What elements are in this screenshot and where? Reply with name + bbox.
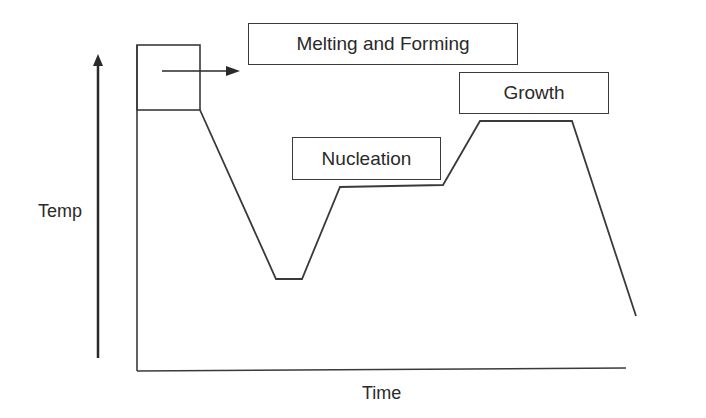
stage-label-text: Melting and Forming bbox=[296, 33, 469, 55]
stage-label-text: Nucleation bbox=[322, 148, 412, 170]
temp-axis-arrow-icon bbox=[93, 54, 103, 358]
stage-label-melting-and-forming: Melting and Forming bbox=[248, 23, 518, 65]
y-axis-label: Temp bbox=[38, 201, 82, 222]
x-axis-label: Time bbox=[362, 383, 401, 404]
stage-label-text: Growth bbox=[503, 82, 564, 104]
stage-label-nucleation: Nucleation bbox=[292, 137, 441, 180]
stage-label-growth: Growth bbox=[459, 72, 609, 114]
right-arrow-icon bbox=[162, 66, 240, 76]
melting-box bbox=[137, 45, 200, 110]
